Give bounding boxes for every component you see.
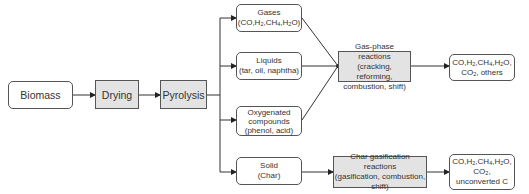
char-products-line2: CO2, (473, 167, 490, 177)
gas-phase-reactions-node: Gas-phase reactions (cracking, reforming… (338, 51, 411, 82)
char-products-line1: CO,H2,CH4,H2O, (452, 157, 511, 167)
pyrolysis-node: Pyrolysis (160, 80, 207, 109)
liquids-composition: (tar, oil, naphtha) (239, 66, 299, 76)
biomass-node: Biomass (8, 81, 73, 109)
char-gasification-title: Char gasification reactions (334, 152, 426, 172)
solid-title: Solid (260, 161, 278, 171)
gas-products-line2: CO2, others (461, 68, 503, 78)
drying-node: Drying (95, 80, 139, 109)
gas-products-line1: CO,H2,CH4,H2O, (452, 58, 511, 68)
solid-node: Solid (Char) (236, 157, 302, 185)
pyrolysis-label: Pyrolysis (162, 90, 204, 100)
gas-phase-detail-1: (cracking, reforming, (339, 62, 410, 82)
oxygenated-title: Oxygenated (247, 108, 290, 117)
biomass-label: Biomass (20, 90, 60, 100)
char-gasification-detail-2: shift) (371, 182, 388, 192)
gases-composition: (CO,H2,CH4,H2O) (238, 18, 301, 28)
gases-node: Gases (CO,H2,CH4,H2O) (236, 4, 302, 32)
oxygenated-node: Oxygenated compounds (phenol, acid) (236, 106, 302, 136)
char-gasification-node: Char gasification reactions (gasificatio… (333, 156, 427, 188)
solid-composition: (Char) (258, 171, 281, 181)
oxygenated-subtitle: compounds (248, 117, 289, 126)
liquids-node: Liquids (tar, oil, naphtha) (236, 52, 302, 80)
gas-products-node: CO,H2,CH4,H2O, CO2, others (449, 54, 515, 81)
oxygenated-composition: (phenol, acid) (245, 126, 293, 135)
char-products-line3: unconverted C (456, 177, 508, 187)
liquids-title: Liquids (256, 56, 281, 66)
gases-title: Gases (257, 8, 280, 18)
char-gasification-detail-1: (gasification, combustion, (335, 172, 425, 182)
drying-label: Drying (102, 90, 132, 100)
gas-phase-title: Gas-phase reactions (339, 42, 410, 62)
gas-phase-detail-2: combustion, shift) (343, 82, 406, 92)
char-products-node: CO,H2,CH4,H2O, CO2, unconverted C (449, 154, 515, 190)
